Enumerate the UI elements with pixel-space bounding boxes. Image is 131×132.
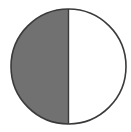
shaded-left-half xyxy=(11,9,68,124)
half-shaded-circle-diagram xyxy=(0,0,131,132)
unshaded-right-half xyxy=(69,9,126,124)
